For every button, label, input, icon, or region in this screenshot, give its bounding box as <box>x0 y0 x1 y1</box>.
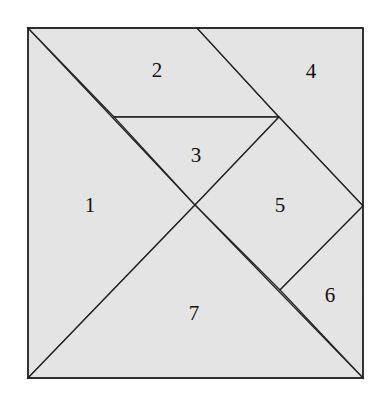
piece-label-3: 3 <box>191 143 202 167</box>
piece-label-2: 2 <box>152 58 163 82</box>
piece-label-4: 4 <box>306 59 317 83</box>
piece-label-7: 7 <box>189 301 200 325</box>
piece-label-6: 6 <box>325 283 336 307</box>
piece-label-5: 5 <box>275 193 286 217</box>
piece-label-1: 1 <box>85 193 96 217</box>
tangram-diagram: 1234567 <box>0 0 383 400</box>
